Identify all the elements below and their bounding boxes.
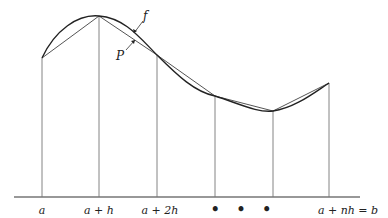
label-p: P: [115, 49, 125, 63]
ordinates: [42, 16, 329, 197]
trapezoid-rule-diagram: f P a a + h a + 2h • • • a + nh = b: [0, 0, 388, 218]
tick-label-a-plus-2h: a + 2h: [142, 204, 179, 217]
ellipsis-dots: • • •: [211, 201, 278, 217]
tick-label-a-plus-h: a + h: [84, 204, 114, 217]
tick-label-a: a: [39, 204, 46, 217]
label-f: f: [142, 9, 150, 23]
tick-label-b: a + nh = b: [318, 204, 378, 217]
curve-f: [42, 16, 329, 111]
polyline-p: [42, 16, 329, 111]
